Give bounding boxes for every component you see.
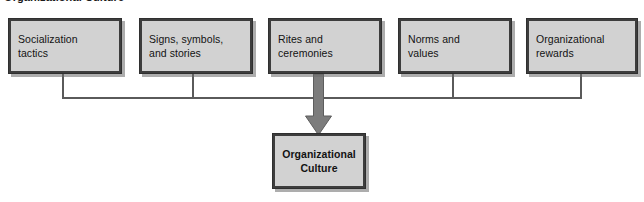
factor-label: Organizational rewards bbox=[536, 32, 604, 60]
connector-drop-signs-symbols-stories bbox=[192, 74, 194, 99]
factor-label: Signs, symbols, and stories bbox=[149, 32, 223, 60]
figure-title: Organizational Culture bbox=[4, 0, 124, 3]
flow-arrow-down bbox=[305, 74, 332, 136]
factor-box-signs-symbols-stories[interactable]: Signs, symbols, and stories bbox=[139, 18, 253, 74]
factor-box-organizational-rewards[interactable]: Organizational rewards bbox=[526, 18, 638, 74]
outcome-label: Organizational Culture bbox=[282, 147, 356, 175]
connector-drop-socialization-tactics bbox=[62, 74, 64, 99]
connector-drop-organizational-rewards bbox=[580, 74, 582, 99]
factor-label: Norms and values bbox=[408, 32, 460, 60]
outcome-box-organizational-culture[interactable]: Organizational Culture bbox=[272, 133, 366, 189]
figure-canvas: Organizational Culture Socialization tac… bbox=[0, 0, 644, 202]
factor-label: Rites and ceremonies bbox=[278, 32, 333, 60]
factor-box-rites-and-ceremonies[interactable]: Rites and ceremonies bbox=[268, 18, 382, 74]
factor-box-socialization-tactics[interactable]: Socialization tactics bbox=[8, 18, 122, 74]
connector-drop-norms-and-values bbox=[452, 74, 454, 99]
factor-label: Socialization tactics bbox=[18, 32, 78, 60]
factor-box-norms-and-values[interactable]: Norms and values bbox=[398, 18, 512, 74]
